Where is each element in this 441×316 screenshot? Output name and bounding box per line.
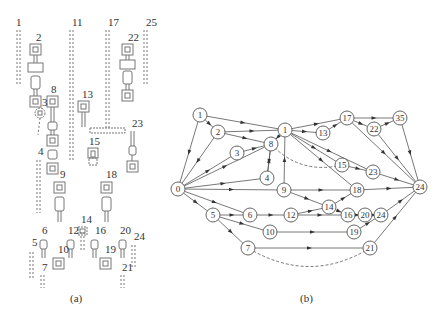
figure-canvas: 1211172522831323154918146121620245101972… — [0, 0, 441, 316]
node-label: 14 — [325, 202, 335, 212]
graph-node: 6 — [243, 208, 257, 222]
arrow-icon — [307, 246, 312, 250]
graph-node: 4 — [260, 171, 274, 185]
graph-node: 1 — [193, 108, 207, 122]
node-label: 7 — [246, 243, 251, 253]
node-label: 24 — [377, 210, 387, 220]
arrow-icon — [311, 145, 316, 149]
node-label: 35 — [396, 113, 406, 123]
node-label: 5 — [211, 210, 216, 220]
component-label: 11 — [72, 16, 83, 28]
arrow-icon — [230, 213, 235, 217]
graph-node: 1 — [278, 123, 292, 137]
component-label: 19 — [105, 243, 117, 255]
component-label: 17 — [108, 16, 120, 28]
graph-node: 24 — [413, 180, 427, 194]
node-label: 17 — [343, 113, 353, 123]
node-label: 0 — [176, 184, 181, 194]
arrow-icon — [336, 209, 341, 213]
node-label: 19 — [350, 227, 360, 237]
component-label: 10 — [58, 243, 70, 255]
arrow-icon — [372, 116, 377, 120]
node-label: 20 — [361, 210, 371, 220]
panel-a — [17, 30, 147, 288]
arrow-icon — [398, 199, 403, 203]
arrow-icon — [319, 188, 324, 192]
graph-node: 8 — [264, 137, 278, 151]
component-label: 1 — [16, 16, 22, 28]
node-label: 13 — [319, 128, 329, 138]
arrow-icon — [222, 165, 227, 169]
arrow-icon — [386, 187, 391, 191]
node-label: 22 — [370, 124, 379, 134]
arrow-icon — [384, 122, 389, 126]
arrow-icon — [310, 230, 315, 234]
component-label: 20 — [120, 224, 132, 236]
component-label: 7 — [42, 261, 48, 273]
node-label: 21 — [366, 243, 375, 253]
component-label: 5 — [32, 236, 38, 248]
arrow-icon — [196, 158, 200, 163]
component-label: 13 — [82, 88, 94, 100]
arrow-icon — [188, 150, 191, 155]
node-label: 16 — [344, 210, 354, 220]
component-label: 25 — [146, 16, 158, 28]
arrow-icon — [249, 129, 254, 133]
node-label: 10 — [266, 227, 276, 237]
arrow-icon — [365, 222, 370, 226]
graph-node: 0 — [171, 182, 185, 196]
arrow-icon — [193, 199, 198, 203]
graph-node: 24 — [374, 208, 388, 222]
graph-node: 16 — [341, 208, 355, 222]
component-label: 4 — [38, 145, 44, 157]
node-label: 6 — [248, 210, 253, 220]
graph-node: 19 — [347, 225, 361, 239]
graph-node: 12 — [284, 208, 298, 222]
node-label: 1 — [198, 110, 203, 120]
arrow-icon — [269, 213, 274, 217]
graph-node: 14 — [322, 200, 336, 214]
arrow-icon — [358, 121, 363, 125]
node-label: 18 — [353, 185, 363, 195]
component-label: 12 — [68, 224, 79, 236]
arrow-icon — [340, 197, 345, 201]
arrow-icon — [326, 149, 331, 153]
graph-node: 9 — [277, 183, 291, 197]
component-label: 21 — [122, 261, 133, 273]
component-label: 18 — [106, 168, 118, 180]
graph-node: 5 — [206, 208, 220, 222]
graph-node: 13 — [316, 126, 330, 140]
caption-a: (a) — [70, 292, 83, 305]
component-label: 23 — [132, 117, 144, 129]
node-label: 12 — [287, 210, 296, 220]
component-label: 24 — [134, 230, 146, 242]
graph-node: 15 — [335, 158, 349, 172]
arrow-icon — [394, 177, 399, 180]
graph-node: 20 — [358, 208, 372, 222]
arrow-icon — [205, 169, 210, 173]
graph-node: 2 — [211, 125, 225, 139]
component-label: 16 — [95, 224, 107, 236]
arrow-icon — [220, 182, 225, 186]
arrow-icon — [229, 188, 234, 192]
component-label: 2 — [36, 31, 42, 43]
graph-node: 18 — [350, 183, 364, 197]
node-label: 8 — [269, 139, 274, 149]
graph-node: 10 — [263, 225, 277, 239]
graph-node: 22 — [367, 122, 381, 136]
node-label: 24 — [416, 182, 426, 192]
component-label: 15 — [89, 135, 101, 147]
graph-nodes: 0123814913172235152318241456121620241019… — [171, 108, 427, 255]
node-label: 2 — [216, 127, 221, 137]
graph-node: 23 — [366, 165, 380, 179]
component-label: 22 — [128, 31, 139, 43]
arrow-icon — [239, 221, 244, 224]
arrow-icon — [408, 150, 411, 155]
arrow-icon — [332, 124, 337, 128]
caption-b: (b) — [300, 292, 313, 305]
node-label: 23 — [369, 167, 379, 177]
component-label: 3 — [42, 96, 48, 108]
node-label: 9 — [282, 185, 287, 195]
node-label: 4 — [265, 173, 270, 183]
arrow-icon — [318, 213, 323, 217]
